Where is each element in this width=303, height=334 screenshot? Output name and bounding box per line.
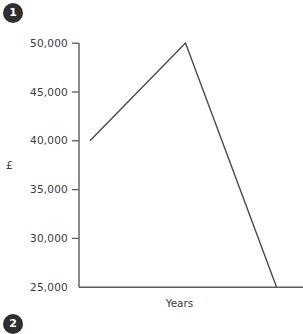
question-number-badge-2: 2 bbox=[3, 314, 23, 334]
question-number-badge-1: 1 bbox=[3, 3, 23, 23]
x-axis-title: Years bbox=[0, 297, 303, 309]
y-axis-label-30000: 30,000 bbox=[30, 232, 68, 244]
y-axis-label-35000: 35,000 bbox=[30, 183, 68, 195]
y-axis-title: £ bbox=[6, 159, 13, 171]
y-axis-label-50000: 50,000 bbox=[30, 37, 68, 49]
y-axis-label-40000: 40,000 bbox=[30, 134, 68, 146]
data-series-line bbox=[90, 43, 277, 287]
y-axis-label-25000: 25,000 bbox=[30, 281, 68, 293]
y-axis-label-45000: 45,000 bbox=[30, 86, 68, 98]
y-axis-ticks bbox=[72, 43, 79, 238]
